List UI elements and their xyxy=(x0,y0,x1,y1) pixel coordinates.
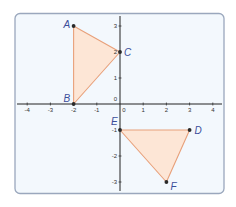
point-f xyxy=(165,180,169,184)
y-tick-label: -2 xyxy=(112,153,118,159)
x-tick-label: -1 xyxy=(94,107,100,113)
point-a xyxy=(72,24,76,28)
point-e xyxy=(118,128,122,132)
point-label-a: A xyxy=(63,19,71,30)
point-d xyxy=(188,128,192,132)
point-label-d: D xyxy=(195,125,202,136)
point-c xyxy=(118,50,122,54)
x-tick-label: -2 xyxy=(71,107,77,113)
point-label-e: E xyxy=(111,116,118,127)
y-tick-label: -1 xyxy=(112,127,118,133)
point-b xyxy=(72,102,76,106)
point-label-c: C xyxy=(124,47,132,58)
point-label-f: F xyxy=(170,181,177,192)
x-tick-label: -4 xyxy=(25,107,31,113)
x-tick-label: -3 xyxy=(48,107,54,113)
point-label-b: B xyxy=(64,93,71,104)
y-tick-label: -3 xyxy=(112,179,118,185)
plot-svg: -4-3-2-1012343210-1-2-3 ABCDEF xyxy=(0,0,236,207)
coordinate-plane-diagram: -4-3-2-1012343210-1-2-3 ABCDEF xyxy=(0,0,236,207)
